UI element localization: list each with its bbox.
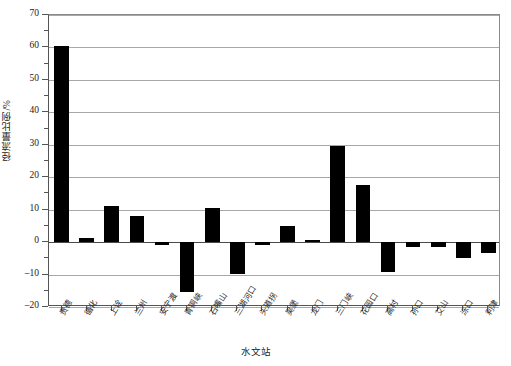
bar <box>381 242 396 272</box>
gridline <box>49 145 499 146</box>
y-tick-label: 10 <box>5 204 39 214</box>
x-axis-title: 水文站 <box>0 344 511 358</box>
bar <box>155 242 170 245</box>
y-tick-label: 40 <box>5 106 39 116</box>
bar <box>356 185 371 242</box>
gridline <box>49 177 499 178</box>
y-tick <box>42 111 48 112</box>
y-tick <box>42 241 48 242</box>
bar <box>280 226 295 242</box>
y-tick <box>42 274 48 275</box>
y-tick-label: 20 <box>5 171 39 181</box>
gridline <box>49 112 499 113</box>
y-tick-label: 30 <box>5 139 39 149</box>
bar <box>180 242 195 292</box>
bar <box>130 216 145 242</box>
y-tick-label: 70 <box>5 9 39 19</box>
y-tick-minor <box>44 63 48 64</box>
gridline <box>49 47 499 48</box>
gridline <box>49 15 499 16</box>
y-tick <box>42 79 48 80</box>
y-tick-label: –10 <box>5 269 39 279</box>
gridline <box>49 80 499 81</box>
y-tick-minor <box>44 95 48 96</box>
y-tick-label: –20 <box>5 301 39 311</box>
y-tick-minor <box>44 30 48 31</box>
bar <box>456 242 471 258</box>
y-tick-label: 0 <box>5 236 39 246</box>
y-tick <box>42 144 48 145</box>
y-tick-label: 60 <box>5 41 39 51</box>
y-tick-minor <box>44 257 48 258</box>
bar <box>54 46 69 242</box>
bar <box>205 208 220 242</box>
plot-area <box>48 14 500 306</box>
y-tick-minor <box>44 160 48 161</box>
bar <box>431 242 446 247</box>
y-tick-minor <box>44 225 48 226</box>
y-tick-minor <box>44 290 48 291</box>
bar-chart: 径流量比例/% –20–10010203040506070 贵德循化上诠兰州安宁… <box>0 0 511 366</box>
y-tick-label: 50 <box>5 74 39 84</box>
bar <box>330 146 345 242</box>
y-tick <box>42 209 48 210</box>
bar <box>255 242 270 245</box>
gridline <box>49 275 499 276</box>
y-tick <box>42 46 48 47</box>
y-tick <box>42 306 48 307</box>
bar <box>406 242 421 247</box>
y-tick <box>42 176 48 177</box>
bar <box>230 242 245 274</box>
bar <box>79 238 94 242</box>
bar <box>481 242 496 253</box>
bar <box>305 240 320 242</box>
y-tick <box>42 14 48 15</box>
y-tick-minor <box>44 128 48 129</box>
y-tick-minor <box>44 192 48 193</box>
bar <box>104 206 119 242</box>
